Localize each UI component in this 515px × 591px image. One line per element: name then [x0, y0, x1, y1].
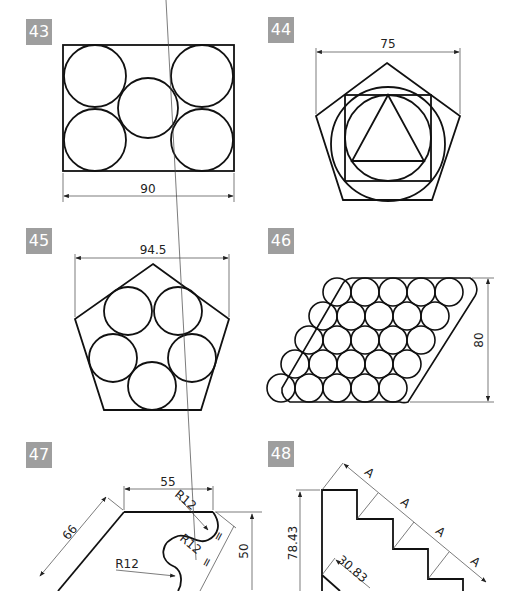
dim-47-slant: 66: [60, 522, 81, 543]
dim-47-radius-1: R12: [172, 487, 199, 513]
figure-43: [63, 45, 234, 202]
dim-48-diag: 30.83: [335, 553, 370, 586]
figure-44: [316, 48, 460, 201]
dim-46-height: 80: [472, 332, 486, 347]
dim-45-width: 94.5: [140, 243, 167, 257]
dim-43-width: 90: [140, 182, 155, 196]
dim-47-radius-3: R12: [115, 557, 139, 571]
dim-48-step-1: A: [362, 465, 378, 482]
dim-47-equal-1: =: [210, 528, 227, 543]
dim-47-height: 50: [237, 543, 251, 558]
dim-44-width: 75: [380, 37, 395, 51]
figure-48: [296, 463, 486, 591]
figure-46: [267, 278, 494, 403]
dim-48-height: 78.43: [286, 526, 300, 560]
dim-48-step-2: A: [398, 495, 414, 512]
drawing-canvas: 90 75 94.5: [0, 0, 515, 591]
dim-47-top: 55: [160, 475, 175, 489]
dim-48-step-4: A: [468, 554, 484, 571]
figure-45: [75, 254, 229, 410]
dim-48-step-3: A: [433, 524, 449, 541]
